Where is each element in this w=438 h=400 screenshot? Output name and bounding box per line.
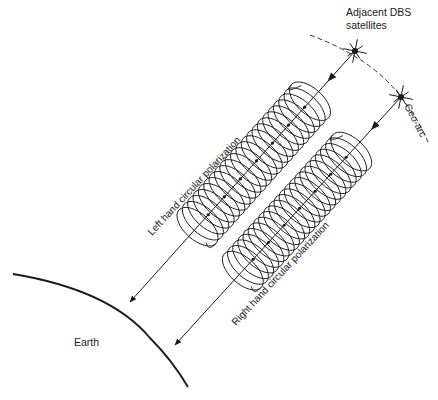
satellite-body	[398, 94, 404, 100]
earth-label: Earth	[74, 336, 99, 348]
helix-marker	[252, 258, 255, 261]
earth-surface-curve	[13, 274, 188, 387]
helix-end-curl	[206, 243, 216, 248]
helix-marker	[255, 159, 258, 162]
helix-marker	[298, 207, 301, 210]
helix-marker	[287, 124, 290, 127]
helix-marker	[267, 241, 270, 244]
helix-marker	[271, 141, 274, 144]
helix-marker	[314, 190, 317, 193]
helix-marker	[283, 224, 286, 227]
helix-marker	[303, 106, 306, 109]
satellites-label-line2: satellites	[346, 19, 387, 31]
right-hand-beam	[175, 97, 401, 345]
helix-marker	[345, 156, 348, 159]
helix-marker	[223, 195, 226, 198]
helix-marker	[239, 177, 242, 180]
left-hand-beam	[130, 51, 355, 302]
satellite-body	[352, 48, 358, 54]
helix-marker	[207, 213, 210, 216]
geo-arc-label: Geo-arc	[402, 102, 429, 139]
helix-marker	[329, 173, 332, 176]
geo-arc-line	[310, 35, 428, 142]
satellites-label-line1: Adjacent DBS	[346, 6, 411, 18]
satellite-icon	[343, 39, 367, 63]
polarization-diagram: Adjacent DBS satellites Geo-arc Left han…	[0, 0, 438, 400]
